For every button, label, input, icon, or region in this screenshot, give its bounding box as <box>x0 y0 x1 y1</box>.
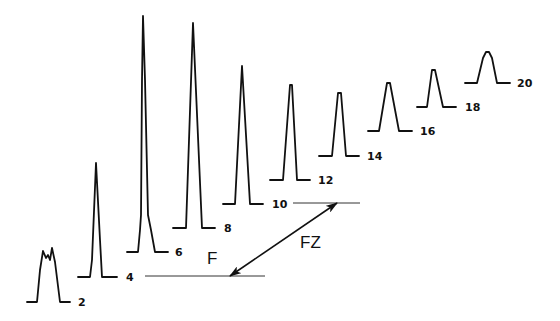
peak-label: 18 <box>465 101 480 114</box>
peak-trace <box>27 248 70 302</box>
guide-lines-group <box>145 203 360 276</box>
peak-trace <box>465 52 510 83</box>
peak-trace <box>319 93 359 156</box>
peak-label: 12 <box>318 174 333 187</box>
peak-trace <box>270 85 310 180</box>
peak-trace <box>78 163 117 277</box>
peak-2: 2 <box>27 248 86 309</box>
peak-label: 2 <box>78 296 86 309</box>
fz-label: FZ <box>300 233 321 252</box>
peak-trace <box>223 66 263 204</box>
peak-10: 10 <box>223 66 288 211</box>
peak-label: 4 <box>126 271 134 284</box>
peak-trace <box>417 70 456 107</box>
fz-double-arrow <box>230 203 337 276</box>
peak-label: 8 <box>224 222 232 235</box>
peak-14: 14 <box>319 93 383 163</box>
peak-series-diagram: 2468101214161820 FZ F <box>0 0 560 321</box>
peak-label: 20 <box>517 77 533 90</box>
peak-20: 20 <box>465 52 533 90</box>
peak-label: 6 <box>175 246 183 259</box>
peak-6: 6 <box>127 16 183 259</box>
peak-trace <box>173 23 215 228</box>
peak-16: 16 <box>368 83 436 138</box>
peak-label: 14 <box>367 150 383 163</box>
peak-trace <box>127 16 168 252</box>
peak-12: 12 <box>270 85 333 187</box>
peaks-group: 2468101214161820 <box>27 16 533 309</box>
peak-trace <box>368 83 412 131</box>
peak-label: 10 <box>272 198 288 211</box>
peak-4: 4 <box>78 163 134 284</box>
peak-18: 18 <box>417 70 480 114</box>
f-label: F <box>207 249 217 268</box>
fz-arrow-group: FZ F <box>207 203 337 276</box>
peak-label: 16 <box>420 125 436 138</box>
